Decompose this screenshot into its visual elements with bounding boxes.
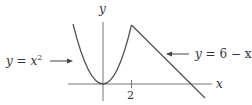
arrowhead-icon xyxy=(166,52,172,57)
line-label: y = 6 − x xyxy=(194,47,252,61)
arrowhead-icon xyxy=(67,59,73,64)
graph: y x 2 y = x2 y = 6 − x xyxy=(0,0,252,105)
parabola-label: y = x2 xyxy=(5,53,42,68)
x-tick-label: 2 xyxy=(127,89,134,102)
parabola-curve xyxy=(73,24,132,84)
line-curve xyxy=(132,25,206,98)
x-axis-label: x xyxy=(216,77,223,91)
y-axis-label: y xyxy=(98,2,106,16)
